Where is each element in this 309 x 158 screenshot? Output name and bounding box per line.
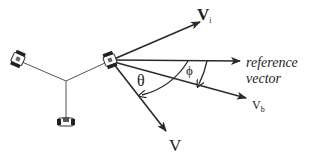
phi-angle-label: ϕ — [186, 64, 193, 77]
edge-main-to-junction — [66, 62, 107, 81]
vi-letter: V — [197, 5, 209, 24]
theta-arc — [142, 61, 188, 95]
robot-left-icon — [9, 49, 27, 69]
vector-vi-label: Vi — [197, 6, 212, 25]
vi-subscript: i — [209, 16, 211, 25]
reference-vector-label: reference vector — [246, 55, 298, 87]
reference-label-line1: reference — [246, 55, 298, 71]
vector-v-label: V — [169, 137, 181, 154]
diagram-canvas: Vi reference vector Vb V θ ϕ — [0, 0, 309, 158]
vector-vi-arrow — [114, 22, 200, 59]
vb-subscript: b — [261, 105, 265, 114]
edge-left-to-junction — [22, 62, 66, 81]
vector-vb-label: Vb — [252, 99, 265, 114]
network-edges — [22, 62, 107, 117]
vectors — [113, 22, 246, 131]
robot-bottom-icon — [57, 117, 75, 126]
reference-label-line2: vector — [246, 71, 298, 87]
phi-arc — [199, 61, 207, 84]
angle-arcs — [142, 61, 207, 95]
theta-angle-label: θ — [137, 73, 145, 89]
vb-letter: V — [252, 98, 261, 112]
vector-vb-arrow — [114, 62, 246, 98]
vector-reference-arrow — [114, 60, 240, 61]
